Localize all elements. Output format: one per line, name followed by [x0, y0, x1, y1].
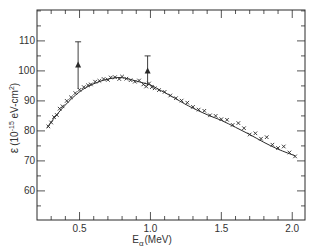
x-marker	[203, 109, 207, 113]
y-axis-unit-prefix: (10	[9, 131, 20, 146]
x-axis-subscript: α	[139, 239, 144, 248]
x-marker	[259, 137, 263, 141]
triangle-point	[145, 56, 151, 86]
triangle-marker	[75, 61, 81, 67]
y-tick-labels: 60708090100110	[18, 35, 35, 196]
x-marker	[65, 99, 69, 103]
x-marker	[254, 132, 258, 136]
y-ticks	[37, 11, 305, 206]
x-tick-label: 0.5	[73, 223, 87, 234]
y-tick-label: 60	[24, 185, 36, 196]
x-tick-label: 1.0	[143, 223, 157, 234]
x-tick-labels: 0.51.01.52.0	[73, 223, 300, 234]
y-axis-exponent: -15	[8, 121, 15, 131]
x-marker	[265, 135, 269, 139]
y-axis-symbol: ε	[7, 147, 21, 153]
y-tick-label: 100	[18, 65, 35, 76]
x-marker	[248, 133, 252, 137]
x-tick-label: 2.0	[285, 223, 299, 234]
triangle-marker	[145, 67, 151, 73]
x-marker	[282, 145, 286, 149]
x-marker	[293, 155, 297, 159]
x-marker	[55, 113, 59, 117]
x-marker	[271, 143, 275, 147]
x-tick-label: 1.5	[214, 223, 228, 234]
fit-line	[47, 78, 295, 156]
triangle-point	[75, 42, 81, 89]
chart: 0.51.01.52.0 60708090100110 Eα(MeV) ε(10…	[0, 0, 316, 249]
y-tick-label: 110	[19, 35, 35, 46]
y-tick-label: 90	[24, 95, 36, 106]
y-tick-label: 70	[24, 155, 36, 166]
data-points-x	[47, 75, 297, 158]
x-axis-title: Eα(MeV)	[132, 234, 172, 248]
x-marker	[186, 101, 190, 105]
y-tick-label: 80	[24, 125, 36, 136]
x-marker	[214, 114, 218, 118]
y-axis-unit-suffix: eV-cm	[9, 90, 20, 121]
x-ticks	[51, 10, 292, 220]
x-marker	[73, 91, 77, 95]
x-marker	[237, 121, 241, 125]
x-marker	[168, 94, 172, 98]
x-axis-unit: (MeV)	[145, 234, 172, 245]
y-axis-title: ε(10-15 eV-cm2)	[7, 83, 21, 153]
x-marker	[242, 126, 246, 130]
fit-curve	[47, 78, 295, 156]
x-marker	[225, 118, 229, 122]
y-axis-close-paren: )	[9, 83, 20, 86]
